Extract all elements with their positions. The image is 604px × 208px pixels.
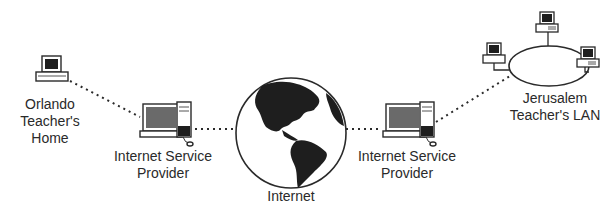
jerusalem-lan-label: Jerusalem Teacher's LAN	[500, 90, 604, 124]
globe-icon	[236, 78, 346, 188]
orlando-label-line2: Teacher's	[10, 113, 90, 130]
internet-label-text: Internet	[251, 188, 331, 205]
jerusalem-label-line2: Teacher's LAN	[500, 107, 604, 124]
isp-right-label: Internet Service Provider	[342, 148, 472, 182]
isp-left-label: Internet Service Provider	[98, 148, 228, 182]
link-isp-right-to-lan	[436, 76, 510, 122]
isp-right-label-line2: Provider	[342, 165, 472, 182]
lan-computer-top-icon	[536, 12, 558, 46]
orlando-label-line1: Orlando	[10, 96, 90, 113]
isp-right-label-line1: Internet Service	[342, 148, 472, 165]
jerusalem-label-line1: Jerusalem	[500, 90, 604, 107]
lan-computer-left-icon	[483, 43, 509, 70]
orlando-label-line3: Home	[10, 130, 90, 147]
internet-label: Internet	[251, 188, 331, 205]
isp-left-label-line2: Provider	[98, 165, 228, 182]
orlando-home-label: Orlando Teacher's Home	[10, 96, 90, 147]
isp-right-computer-icon	[383, 102, 436, 146]
home-computer-icon	[36, 56, 68, 81]
isp-left-computer-icon	[140, 102, 193, 146]
isp-left-label-line1: Internet Service	[98, 148, 228, 165]
